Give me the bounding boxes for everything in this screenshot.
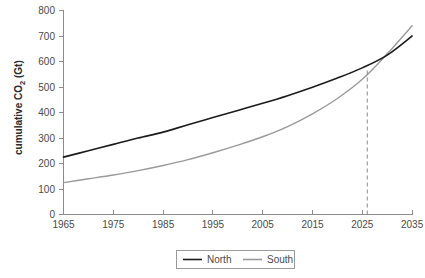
y-tick-label-500: 500 <box>38 82 55 93</box>
x-tick-label-1975: 1975 <box>102 219 125 230</box>
y-tick-label-700: 700 <box>38 31 55 42</box>
y-tick-label-300: 300 <box>38 133 55 144</box>
legend: North South <box>177 251 295 269</box>
x-tick-label-2035: 2035 <box>401 219 424 230</box>
y-axis-title-unit: (Gt) <box>13 60 24 81</box>
chart-svg: cumulative CO2 (Gt) 800 700 600 500 400 … <box>0 0 425 278</box>
y-tick-label-400: 400 <box>38 107 55 118</box>
y-tick-label-200: 200 <box>38 158 55 169</box>
legend-label-north[interactable]: North <box>207 254 231 265</box>
y-tick-label-600: 600 <box>38 56 55 67</box>
x-tick-label-2015: 2015 <box>301 219 324 230</box>
x-tick-label-1995: 1995 <box>202 219 225 230</box>
y-axis-title-main: cumulative CO <box>13 85 24 155</box>
x-tick-label-2025: 2025 <box>351 219 374 230</box>
x-tick-label-2005: 2005 <box>252 219 275 230</box>
x-tick-label-1965: 1965 <box>52 219 75 230</box>
legend-label-south[interactable]: South <box>267 254 293 265</box>
x-tick-label-1985: 1985 <box>152 219 175 230</box>
y-tick-label-800: 800 <box>38 5 55 16</box>
y-tick-label-100: 100 <box>38 184 55 195</box>
cumulative-co2-line-chart: cumulative CO2 (Gt) 800 700 600 500 400 … <box>0 0 425 278</box>
